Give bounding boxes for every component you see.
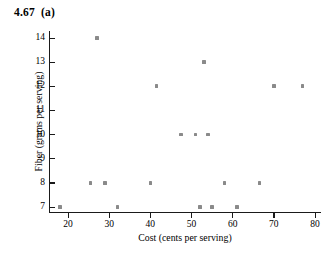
data-point xyxy=(116,205,120,209)
x-tick-label: 30 xyxy=(98,219,120,229)
x-tick xyxy=(191,213,192,218)
data-point xyxy=(223,181,227,185)
data-point xyxy=(272,84,276,88)
y-tick xyxy=(50,158,55,159)
x-tick-label: 60 xyxy=(222,219,244,229)
data-point xyxy=(89,181,93,185)
data-point xyxy=(210,205,214,209)
data-point xyxy=(58,205,62,209)
x-tick xyxy=(68,213,69,218)
scatter-plot: Fiber (grams per serving) Cost (cents pe… xyxy=(0,0,334,259)
y-tick-label: 9 xyxy=(25,153,45,163)
data-point xyxy=(103,181,107,185)
data-point xyxy=(95,36,99,40)
x-tick xyxy=(315,213,316,218)
data-point xyxy=(194,133,198,137)
y-tick xyxy=(50,62,55,63)
x-tick-label: 20 xyxy=(57,219,79,229)
x-axis-label: Cost (cents per serving) xyxy=(49,232,321,243)
x-tick-label: 80 xyxy=(304,219,326,229)
y-tick-label: 7 xyxy=(25,201,45,211)
y-tick xyxy=(50,182,55,183)
y-tick xyxy=(50,110,55,111)
y-tick xyxy=(50,86,55,87)
y-tick-label: 10 xyxy=(25,129,45,139)
y-tick xyxy=(50,38,55,39)
x-tick xyxy=(109,213,110,218)
data-point xyxy=(235,205,239,209)
x-tick xyxy=(150,213,151,218)
data-point xyxy=(198,205,202,209)
x-tick-label: 50 xyxy=(181,219,203,229)
x-axis-line xyxy=(49,212,321,213)
x-tick xyxy=(232,213,233,218)
x-tick-label: 40 xyxy=(139,219,161,229)
data-point xyxy=(301,84,305,88)
data-point xyxy=(179,133,183,137)
figure-container: 4.67 (a) Fiber (grams per serving) Cost … xyxy=(0,0,334,259)
x-tick-label: 70 xyxy=(263,219,285,229)
data-point xyxy=(202,60,206,64)
y-tick-label: 14 xyxy=(25,32,45,42)
y-tick-label: 12 xyxy=(25,80,45,90)
data-point xyxy=(149,181,153,185)
data-point xyxy=(206,133,210,137)
y-tick-label: 11 xyxy=(25,104,45,114)
y-tick-label: 8 xyxy=(25,177,45,187)
x-tick xyxy=(273,213,274,218)
data-point xyxy=(258,181,262,185)
data-point xyxy=(155,84,159,88)
y-tick-label: 13 xyxy=(25,56,45,66)
y-tick xyxy=(50,207,55,208)
y-tick xyxy=(50,134,55,135)
y-axis-line xyxy=(49,31,50,213)
